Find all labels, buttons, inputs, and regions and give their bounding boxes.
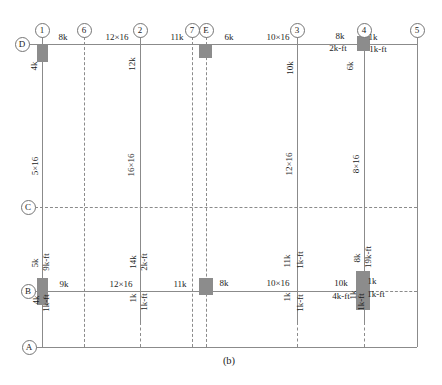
b-load-10k: 10k	[334, 279, 348, 288]
axis-D: D	[15, 37, 30, 52]
b-load-1k: 1k	[368, 277, 377, 286]
b-load-9k: 9k	[60, 280, 69, 289]
col2-size-16x16: 16×16	[127, 153, 136, 176]
d-beam-10x16: 10×16	[266, 33, 289, 42]
figure-caption: (b)	[223, 355, 235, 366]
axis-E: E	[199, 23, 214, 38]
d-load-6k: 6k	[225, 33, 234, 42]
b1-moment-9kft: 9k-ft	[42, 253, 51, 271]
grid-line-5	[417, 37, 418, 347]
column-DE	[199, 44, 212, 58]
axis-5: 5	[410, 23, 425, 38]
b-load-11k: 11k	[173, 280, 186, 289]
col1-load-4k: 4k	[30, 62, 39, 71]
b2-moment-2kft: 2k-ft	[140, 253, 149, 271]
framing-plan-figure: 1627E345DCBA8k12×1611k6k10×168k2k-ft1k1k…	[0, 0, 442, 385]
d-beam-12x16: 12×16	[105, 33, 128, 42]
grid-line-3-beam	[297, 37, 298, 322]
d4-moment-2kft: 2k-ft	[329, 44, 347, 53]
col4-load-6k: 6k	[346, 62, 355, 71]
b1-load-5k: 5k	[31, 259, 40, 268]
column-BE	[199, 278, 213, 295]
axis-7: 7	[185, 23, 200, 38]
axis-2: 2	[133, 23, 148, 38]
col3-load-10k: 10k	[286, 61, 295, 75]
axis-3: 3	[290, 23, 305, 38]
b-moment-4kft: 4k-ft	[332, 292, 350, 301]
b4-moment-1kft: 1k-ft	[357, 293, 366, 311]
d-load-8k: 8k	[59, 33, 68, 42]
b3-load-11k: 11k	[283, 254, 292, 267]
b1-load-4k: 4k	[32, 296, 41, 305]
col3-size-12x16: 12×16	[285, 152, 294, 175]
b1-moment-1kft: 1k-ft	[42, 294, 51, 312]
axis-6: 6	[77, 23, 92, 38]
b-beam-10x16: 10×16	[266, 279, 289, 288]
b3-load-1k: 1k	[283, 293, 292, 302]
grid-line-E	[206, 37, 207, 347]
grid-line-2-lower	[140, 322, 141, 347]
column-D1	[37, 44, 48, 62]
col4-size-8x16: 8×16	[352, 155, 361, 174]
col2-load-12k: 12k	[128, 57, 137, 71]
grid-line-C	[35, 207, 417, 208]
b-load-8k: 8k	[220, 279, 229, 288]
b4-load-8k: 8k	[353, 254, 362, 263]
axis-A: A	[22, 340, 37, 355]
grid-line-3-lower	[297, 322, 298, 347]
b2-load-1k: 1k	[129, 294, 138, 303]
d4-load-1k: 1k	[369, 33, 378, 42]
b3-moment-1kft-a: 1k-ft	[296, 251, 305, 269]
grid-line-2-beam	[140, 37, 141, 322]
axis-1: 1	[35, 23, 50, 38]
d-load-11k: 11k	[170, 33, 183, 42]
grid-line-A	[36, 347, 417, 348]
b3-moment-1kft-b: 1k-ft	[296, 294, 305, 312]
grid-line-7	[192, 37, 193, 347]
b2-load-14k: 14k	[129, 255, 138, 269]
d4-moment-1kft: 1k-ft	[369, 45, 387, 54]
b2-moment-1kft: 1k-ft	[140, 293, 149, 311]
grid-line-6	[84, 37, 85, 347]
col1-size-5x16: 5×16	[31, 157, 40, 176]
b4-moment-19kft: 19k-ft	[364, 246, 373, 268]
d4-load-8k: 8k	[336, 32, 345, 41]
grid-line-4-lower	[364, 322, 365, 347]
b-moment-1kft: 1k-ft	[367, 290, 385, 299]
axis-C: C	[21, 200, 36, 215]
b-beam-12x16: 12×16	[109, 280, 132, 289]
